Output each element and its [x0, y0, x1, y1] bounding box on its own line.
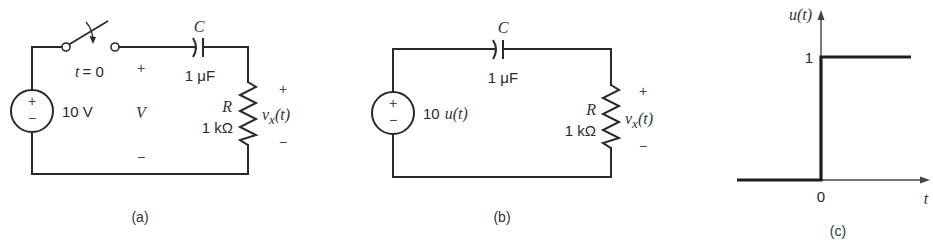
- switch-label: t= 0: [75, 63, 104, 80]
- x-tick-label: 0: [817, 188, 825, 205]
- source-minus: −: [389, 112, 397, 128]
- output-plus: +: [279, 81, 287, 97]
- source-label: 10 V: [62, 103, 93, 120]
- output-label: vx(t): [625, 110, 653, 131]
- caption-c: (c): [830, 223, 846, 239]
- wire-a-left-top: [32, 47, 62, 90]
- capacitor-symbol: C: [194, 18, 205, 35]
- y-tick-label: 1: [805, 49, 813, 66]
- resistor-value: 1 kΩ: [565, 122, 596, 139]
- source-label: 10u(t): [423, 105, 468, 123]
- output-label: vx(t): [262, 106, 290, 127]
- source-plus: +: [389, 95, 397, 111]
- output-arg: (t): [275, 106, 290, 124]
- resistor-symbol: R: [585, 101, 596, 118]
- source-amplitude: 10: [423, 105, 440, 122]
- node-voltage-label: V: [136, 104, 148, 121]
- source-minus: −: [28, 110, 36, 126]
- circuit-a: + − t= 0 10 V + V − C 1 μF R 1 kΩ + vx(t…: [11, 18, 290, 225]
- output-plus: +: [639, 83, 647, 99]
- output-minus: −: [639, 138, 647, 154]
- caption-a: (a): [131, 209, 148, 225]
- y-axis-arrow-icon: [818, 10, 825, 20]
- resistor-symbol: R: [221, 98, 232, 115]
- caption-b: (b): [493, 209, 510, 225]
- source-function: u(t): [445, 105, 468, 123]
- node-minus: −: [137, 149, 145, 165]
- output-arg: (t): [638, 110, 653, 128]
- wire-b-left-top: [393, 49, 495, 92]
- wire-b-right-bottom: [393, 134, 611, 177]
- switch-eq: = 0: [82, 63, 103, 80]
- x-axis-label: t: [924, 190, 929, 207]
- y-axis-label: u(t): [789, 6, 812, 24]
- switch-icon: [62, 21, 119, 51]
- capacitor-symbol: C: [498, 19, 509, 36]
- wire-b-top-right: [503, 49, 611, 85]
- circuit-b: + − 10u(t) C 1 μF R 1 kΩ + vx(t) − (b): [372, 19, 653, 225]
- resistor-value: 1 kΩ: [202, 119, 233, 136]
- resistor-icon: [603, 85, 619, 148]
- figure: + − t= 0 10 V + V − C 1 μF R 1 kΩ + vx(t…: [0, 0, 933, 252]
- source-plus: +: [28, 93, 36, 109]
- step-function-line: [737, 57, 911, 180]
- resistor-icon: [240, 82, 256, 145]
- capacitor-value: 1 μF: [185, 67, 215, 84]
- output-minus: −: [279, 134, 287, 150]
- capacitor-value: 1 μF: [488, 69, 518, 86]
- node-plus: +: [137, 60, 145, 76]
- x-axis-arrow-icon: [920, 177, 930, 184]
- step-plot: u(t) 1 0 t (c): [737, 6, 930, 239]
